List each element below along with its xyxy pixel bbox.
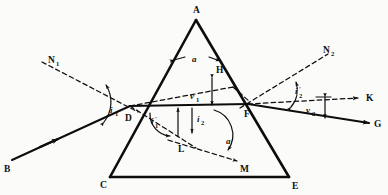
prism-refraction-diagram: A C E B D F G K N 1 N 2 i 1 i	[0, 0, 388, 195]
label-v1-sub: 1	[196, 96, 199, 103]
label-vertex-c: C	[100, 180, 107, 190]
undeviated-extension-ray-k	[248, 98, 358, 104]
label-point-k: K	[366, 93, 374, 103]
angle-apex-a-marker	[174, 57, 220, 61]
internal-refracted-ray-df	[130, 104, 248, 106]
label-v1-symbol: v	[190, 91, 195, 101]
normal-n2	[240, 54, 328, 108]
label-point-f: F	[244, 109, 250, 119]
label-angle-i1prime-sub: 1	[155, 122, 158, 129]
label-deviation-v2: v 2	[306, 105, 315, 117]
label-point-g: G	[374, 119, 382, 129]
label-point-d: D	[125, 113, 132, 123]
prism-edge-ae	[196, 20, 289, 177]
optics-diagram-canvas: A C E B D F G K N 1 N 2 i 1 i	[0, 0, 388, 195]
label-normal-n1-base: N	[48, 55, 55, 65]
label-vertex-e: E	[292, 181, 298, 191]
undeviated-ray-line	[248, 98, 358, 104]
label-vertex-a: A	[193, 5, 200, 15]
dl-dashed-line	[130, 106, 196, 148]
label-normal-n2: N 2	[323, 45, 334, 57]
normal-n1-line	[42, 62, 138, 112]
label-angle-i1prime-mark: '	[155, 115, 157, 122]
label-point-h: H	[216, 65, 224, 75]
label-point-l: L	[178, 144, 184, 154]
incident-extension-line	[130, 87, 233, 106]
label-point-m: M	[240, 164, 249, 174]
label-angle-i2prime-mark: '	[299, 85, 301, 92]
label-angle-apex-a: a	[192, 54, 197, 64]
label-angle-i1-sub: 1	[115, 110, 118, 117]
prism-body	[110, 20, 289, 177]
internal-ray-line	[130, 104, 248, 106]
label-angle-apex-a-alt: a	[226, 136, 231, 146]
label-angle-i2-symbol: i	[197, 114, 200, 124]
label-angle-i1-prime: i ' 1	[151, 115, 158, 129]
label-normal-n2-base: N	[323, 45, 330, 55]
incident-extension-tail	[233, 87, 249, 101]
label-angle-i2: i 2	[197, 114, 204, 126]
normal-n1	[42, 62, 138, 112]
angle-i2-marker	[178, 108, 192, 136]
label-deviation-v1: v 1	[190, 91, 199, 103]
angle-i1prime-marker	[130, 106, 196, 148]
label-angle-i2prime-sub: 2	[299, 92, 302, 99]
label-point-b: B	[4, 164, 11, 174]
label-normal-n2-sub: 2	[331, 50, 334, 57]
incident-ray-arrow	[40, 139, 58, 147]
label-angle-i2-sub: 2	[201, 119, 204, 126]
label-v2-sub: 2	[312, 110, 315, 117]
label-normal-n1-sub: 1	[56, 60, 59, 67]
normal-n2-line	[240, 54, 328, 108]
label-normal-n1: N 1	[48, 55, 59, 67]
